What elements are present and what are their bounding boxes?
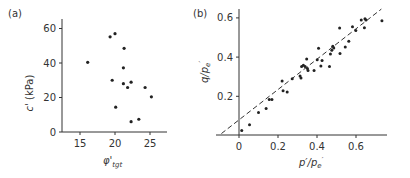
x-tick-label: 0.2 [270, 141, 286, 152]
data-point [113, 32, 116, 35]
data-point [286, 90, 289, 93]
y-tick-label: 0.6 [217, 12, 233, 23]
data-point [150, 95, 153, 98]
data-point [347, 40, 350, 43]
x-tick-label: 0.6 [348, 141, 364, 152]
panel-b-fit-line [221, 9, 381, 133]
y-tick-label: 0.4 [217, 52, 233, 63]
data-point [332, 46, 335, 49]
data-point [363, 26, 366, 29]
panel-a-x-ticks: 152025 [74, 132, 157, 149]
data-point [126, 86, 129, 89]
x-tick-label: 15 [74, 138, 87, 149]
y-tick-label: 40 [43, 58, 56, 69]
data-point [329, 52, 332, 55]
data-point [282, 89, 285, 92]
data-point [364, 19, 367, 22]
data-point [240, 129, 243, 132]
data-point [248, 123, 251, 126]
panel-b-y-axis-title: q/pe′ [198, 61, 212, 83]
y-tick-label: 20 [43, 92, 56, 103]
data-point [321, 59, 324, 62]
data-point [380, 19, 383, 22]
data-point [360, 19, 363, 22]
x-tick-label: 25 [144, 138, 157, 149]
panel-b-points [240, 17, 383, 132]
panel-a-y-axis-title: c' (kPa) [24, 75, 35, 112]
data-point [130, 120, 133, 123]
data-point [109, 35, 112, 38]
y-tick-label: 0.2 [217, 91, 233, 102]
data-point [114, 106, 117, 109]
figure: (a) 0204060 152025 c' (kPa) φ'tgt (b) 0.… [0, 0, 410, 178]
data-point [305, 58, 308, 61]
panel-b-label: (b) [193, 8, 207, 19]
data-point [307, 69, 310, 72]
panel-a-label: (a) [8, 8, 22, 19]
data-point [304, 65, 307, 68]
data-point [137, 118, 140, 121]
data-point [317, 47, 320, 50]
data-point [291, 77, 294, 80]
data-point [313, 69, 316, 72]
data-point [123, 47, 126, 50]
data-point [300, 76, 303, 79]
data-point [338, 27, 341, 30]
x-tick-label: 20 [109, 138, 122, 149]
data-point [144, 86, 147, 89]
panel-b: (b) 0.20.40.6 00.20.40.6 q/pe′ p′/pe′ [193, 8, 387, 170]
panel-a-axes [62, 19, 167, 132]
y-tick-label: 0 [50, 127, 56, 138]
panel-b-y-ticks: 0.20.40.6 [217, 12, 239, 101]
panel-a-x-axis-title: φ'tgt [103, 155, 123, 169]
panel-a: (a) 0204060 152025 c' (kPa) φ'tgt [8, 8, 167, 169]
panel-b-axes [216, 9, 387, 135]
panel-b-x-axis-title: p′/pe′ [298, 156, 324, 170]
y-tick-label: 60 [43, 23, 56, 34]
data-point [354, 29, 357, 32]
data-point [328, 65, 331, 68]
data-point [344, 45, 347, 48]
data-point [351, 25, 354, 28]
data-point [339, 52, 342, 55]
data-point [319, 65, 322, 68]
data-point [122, 82, 125, 85]
panel-a-points [86, 32, 153, 123]
data-point [265, 107, 268, 110]
x-tick-label: 0 [236, 141, 242, 152]
data-point [330, 49, 333, 52]
data-point [268, 98, 271, 101]
data-point [86, 61, 89, 64]
panel-a-y-ticks: 0204060 [43, 23, 62, 138]
data-point [281, 80, 284, 83]
x-tick-label: 0.4 [309, 141, 325, 152]
data-point [111, 79, 114, 82]
data-point [130, 81, 133, 84]
data-point [257, 111, 260, 114]
panel-b-x-ticks: 00.20.40.6 [236, 135, 364, 152]
data-point [270, 98, 273, 101]
data-point [122, 66, 125, 69]
data-point [316, 58, 319, 61]
